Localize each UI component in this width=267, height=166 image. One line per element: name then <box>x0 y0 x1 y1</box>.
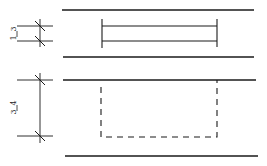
dashed-rectangle <box>101 80 217 137</box>
svg-text:3: 3 <box>9 26 18 31</box>
svg-text:4: 4 <box>9 100 18 105</box>
fraction-diagram: 1 3 3 4 <box>0 0 267 166</box>
